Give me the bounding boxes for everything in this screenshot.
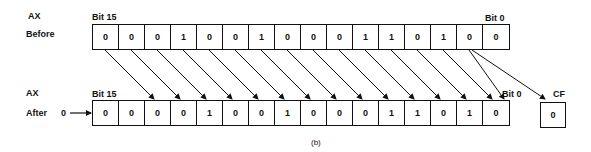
shift-right-arrows bbox=[0, 0, 591, 152]
after-bit-10: 0 bbox=[223, 101, 249, 125]
carry-flag-box: 0 bbox=[540, 102, 566, 128]
after-bit-8: 1 bbox=[275, 101, 301, 125]
after-bit-4: 1 bbox=[379, 101, 405, 125]
after-bit-1: 1 bbox=[457, 101, 483, 125]
after-bit-7: 0 bbox=[301, 101, 327, 125]
carry-flag-label: CF bbox=[553, 89, 565, 99]
after-bit-15: 0 bbox=[93, 101, 119, 125]
after-register-label: AX bbox=[26, 88, 39, 98]
after-bit-12: 0 bbox=[171, 101, 197, 125]
carry-flag-value: 0 bbox=[550, 110, 555, 120]
after-bit-11: 1 bbox=[197, 101, 223, 125]
after-bit-6: 0 bbox=[327, 101, 353, 125]
after-bit-5: 0 bbox=[353, 101, 379, 125]
after-register: 0 0 0 0 1 0 0 1 0 0 0 1 1 0 1 0 bbox=[92, 100, 510, 126]
after-bit-2: 0 bbox=[431, 101, 457, 125]
after-row-label: After bbox=[26, 108, 47, 118]
after-bit-14: 0 bbox=[119, 101, 145, 125]
after-bit-3: 1 bbox=[405, 101, 431, 125]
after-msb-label: Bit 15 bbox=[92, 89, 117, 99]
after-bit-0: 0 bbox=[483, 101, 509, 125]
after-bit-13: 0 bbox=[145, 101, 171, 125]
after-lsb-label: Bit 0 bbox=[502, 89, 522, 99]
after-bit-9: 0 bbox=[249, 101, 275, 125]
shift-in-value: 0 bbox=[61, 108, 66, 118]
figure-caption: (b) bbox=[311, 138, 321, 147]
